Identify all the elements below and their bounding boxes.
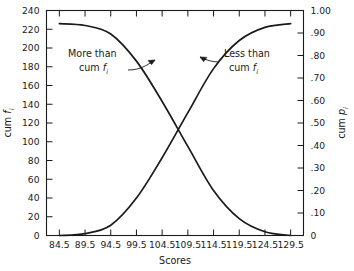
x-axis-tick-label: 124.5 [252,239,278,250]
right-axis-tick-label: 1.00 [311,5,332,16]
x-axis-tick-label: 99.5 [126,239,147,250]
less-than-annotation-prefix: cum [229,62,253,73]
x-axis-tick-label: 119.5 [226,239,252,250]
more-than-annotation-line1: More than [68,48,117,59]
left-axis-title-prefix: cum [2,114,13,138]
right-axis-tick-label: .60 [311,95,326,106]
x-axis-title: Scores [159,255,191,266]
less-than-annotation-line1: Less than [224,48,270,59]
right-axis-tick-label: .30 [311,162,326,173]
left-axis-tick-label: 220 [22,24,40,35]
left-axis-tick-label: 180 [22,61,40,72]
left-axis-title-sub: i [8,108,16,110]
right-axis-title-var: p [336,109,347,116]
x-axis-tick-label: 114.5 [200,239,226,250]
left-axis-tick-label: 120 [22,117,40,128]
x-axis-tick-label: 94.5 [101,239,122,250]
cumulative-frequency-ogive-chart: 020406080100120140160180200220240 0.10.2… [0,0,354,271]
more-than-annotation-prefix: cum [79,62,103,73]
left-axis-tick-label: 100 [22,136,40,147]
right-axis-tick-label: .20 [311,185,326,196]
left-axis-tick-label: 140 [22,99,40,110]
less-than-annotation-sub: i [256,68,258,76]
x-axis-tick-label: 89.5 [75,239,96,250]
x-axis-tick-label: 84.5 [49,239,70,250]
x-axis-tick-labels: 84.589.594.599.5104.5109.5114.5119.5124.… [49,239,304,250]
right-axis-tick-label: .90 [311,27,326,38]
x-axis-tick-label: 129.5 [277,239,303,250]
left-axis-tick-label: 80 [28,155,40,166]
right-axis-tick-label: .10 [311,207,326,218]
right-axis-tick-label: .70 [311,72,326,83]
right-axis-tick-label: .80 [311,50,326,61]
more-than-annotation-sub: i [106,68,108,76]
right-axis-title-prefix: cum [336,115,347,139]
x-axis-tick-label: 104.5 [149,239,175,250]
x-axis-tick-label: 109.5 [175,239,201,250]
chart-background [0,0,354,271]
left-axis-tick-label: 240 [22,5,40,16]
right-axis-tick-label: .40 [311,140,326,151]
left-axis-tick-label: 60 [28,174,40,185]
left-axis-tick-label: 0 [34,230,40,241]
left-axis-tick-label: 200 [22,42,40,53]
right-axis-tick-label: 0 [311,230,317,241]
left-axis-tick-label: 20 [28,211,40,222]
left-axis-tick-label: 160 [22,80,40,91]
left-axis-tick-label: 40 [28,192,40,203]
right-axis-title-sub: i [342,107,350,109]
right-axis-tick-label: .50 [311,117,326,128]
figure: 020406080100120140160180200220240 0.10.2… [0,0,354,271]
